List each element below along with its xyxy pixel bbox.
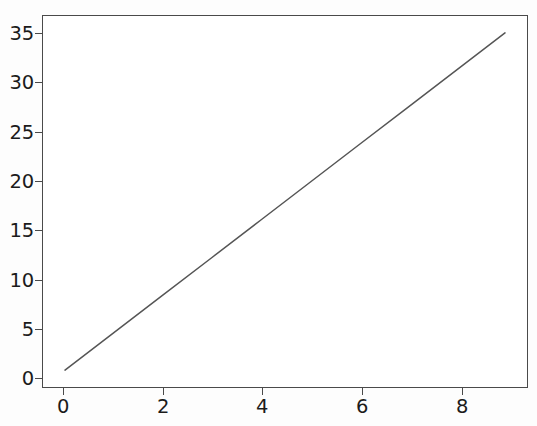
x-tick-mark (63, 388, 64, 395)
y-tick-mark (35, 230, 42, 231)
plot-area (43, 16, 527, 387)
y-tick-label: 5 (0, 320, 34, 340)
y-tick-mark (35, 33, 42, 34)
y-tick-label: 35 (0, 24, 34, 44)
y-tick-mark (35, 329, 42, 330)
x-tick-label: 8 (440, 397, 484, 417)
x-tick-label: 6 (340, 397, 384, 417)
plot-axes-frame (42, 15, 528, 388)
y-tick-mark (35, 132, 42, 133)
y-tick-label: 30 (0, 73, 34, 93)
figure-canvas: 35 30 25 20 15 10 5 0 0 2 4 6 8 (0, 0, 537, 426)
y-tick-label: 0 (0, 369, 34, 389)
y-tick-label: 25 (0, 123, 34, 143)
y-tick-label: 15 (0, 221, 34, 241)
y-tick-label: 10 (0, 271, 34, 291)
x-tick-mark (262, 388, 263, 395)
x-tick-mark (163, 388, 164, 395)
y-tick-mark (35, 378, 42, 379)
y-tick-mark (35, 280, 42, 281)
y-tick-mark (35, 82, 42, 83)
x-tick-mark (362, 388, 363, 395)
x-tick-label: 4 (240, 397, 284, 417)
x-tick-label: 2 (141, 397, 185, 417)
x-tick-mark (462, 388, 463, 395)
y-tick-label: 20 (0, 172, 34, 192)
x-tick-label: 0 (41, 397, 85, 417)
line-series-0 (65, 33, 505, 370)
y-tick-mark (35, 181, 42, 182)
